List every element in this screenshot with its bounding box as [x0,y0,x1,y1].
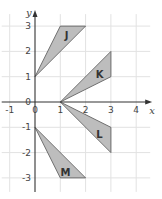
y-tick-label: 2 [25,46,31,56]
x-axis-arrowhead [145,100,152,105]
y-tick-label: -3 [22,173,31,183]
x-tick-label: 1 [57,105,63,115]
y-tick-label: -2 [22,148,31,158]
shape-label-m: M [60,167,70,178]
coordinate-grid: x y -101234-3-2-10123 JKLM [0,0,162,199]
x-tick-label: 4 [133,105,139,115]
y-tick-label: 0 [25,97,31,107]
x-axis-label: x [149,105,155,116]
y-tick-label: 3 [25,21,31,31]
shape-label-k: K [96,69,105,80]
y-axis-arrowhead [33,10,38,17]
x-tick-label: 3 [108,105,114,115]
x-tick-label: -1 [5,105,14,115]
y-tick-label: 1 [25,72,31,82]
coordinate-diagram: x y -101234-3-2-10123 JKLM [0,0,162,199]
grid-lines [2,14,151,192]
x-tick-label: 2 [83,105,89,115]
x-tick-label: 0 [32,105,38,115]
y-tick-label: -1 [22,122,31,132]
shape-label-l: L [96,129,103,140]
shape-label-j: J [64,30,69,41]
y-axis-label: y [25,7,32,18]
